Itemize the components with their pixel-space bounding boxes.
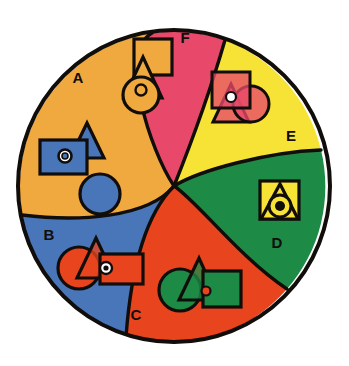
sector-label-E: E [286, 127, 296, 144]
sector-label-A: A [73, 69, 84, 86]
small-circle-C [202, 287, 211, 296]
small-circle-B-inner [103, 265, 108, 270]
small-circle-E [226, 92, 236, 102]
figure-root: A B C D E F [0, 0, 349, 366]
small-circle-A-inner [62, 153, 68, 159]
shape-group-D[interactable] [260, 181, 299, 219]
sector-label-C: C [131, 306, 142, 323]
circle-A [80, 174, 120, 214]
sector-label-B: B [44, 226, 55, 243]
sector-label-D: D [272, 234, 283, 251]
pinwheel-diagram: A B C D E F [0, 0, 349, 366]
small-circle-D [275, 201, 285, 211]
sector-label-F: F [180, 29, 189, 46]
